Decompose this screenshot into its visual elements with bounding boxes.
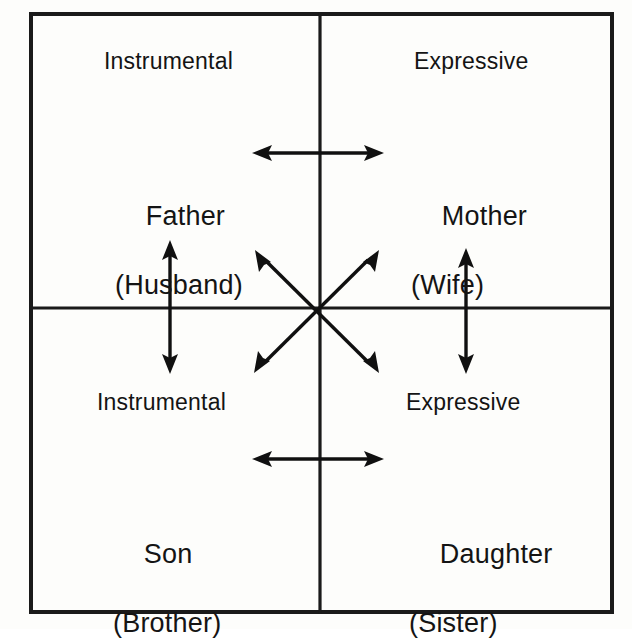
quadrant-bottom-left-axis-label: Instrumental	[97, 388, 226, 417]
quadrant-bottom-right-axis-label: Expressive	[406, 388, 520, 417]
role-primary-label: Daughter	[440, 539, 553, 569]
quadrant-bottom-left-role: Son (Brother)	[113, 502, 221, 642]
quadrant-top-right-axis-label: Expressive	[414, 47, 528, 76]
role-secondary-label: (Brother)	[113, 606, 221, 641]
arrow-head-northwest	[255, 250, 271, 272]
role-primary-label: Son	[144, 539, 193, 569]
arrow-head-southwest	[254, 351, 270, 373]
quadrant-top-left-axis-label: Instrumental	[104, 47, 233, 76]
role-secondary-label: (Sister)	[409, 606, 552, 641]
bottom-horizontal-double-arrow	[252, 451, 384, 467]
role-secondary-label: (Husband)	[115, 268, 243, 303]
quadrant-bottom-right-role: Daughter (Sister)	[409, 502, 552, 642]
quadrant-top-right-role: Mother (Wife)	[411, 164, 527, 371]
role-primary-label: Mother	[442, 201, 527, 231]
top-horizontal-double-arrow	[252, 145, 384, 161]
role-primary-label: Father	[146, 201, 225, 231]
quadrant-top-left-role: Father (Husband)	[115, 164, 243, 371]
role-secondary-label: (Wife)	[411, 268, 527, 303]
arrow-head-southeast	[363, 351, 379, 373]
arrow-head-northeast	[363, 250, 379, 272]
